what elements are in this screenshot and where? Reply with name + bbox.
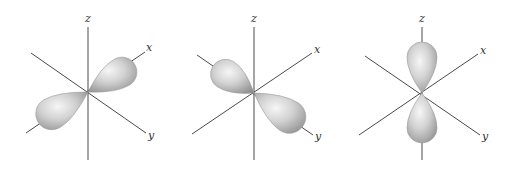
orbital-lobe-2 bbox=[254, 93, 306, 133]
orbital-lobe-1 bbox=[88, 57, 137, 92]
orbital-lobe-2 bbox=[407, 93, 437, 143]
z-axis-label: z bbox=[84, 12, 91, 25]
x-axis-label: x bbox=[314, 43, 321, 56]
p-orbitals-figure: xyz xyz xyz bbox=[0, 0, 508, 173]
orbital-lobe-2 bbox=[36, 92, 88, 130]
z-axis-label: z bbox=[250, 12, 257, 25]
x-axis-label: x bbox=[146, 41, 153, 54]
x-axis-label: x bbox=[480, 44, 487, 57]
panel-pz: xyz bbox=[359, 12, 489, 160]
orbital-lobe-1 bbox=[211, 59, 254, 93]
panel-py: xyz bbox=[192, 12, 322, 160]
panel-px: xyz bbox=[26, 12, 155, 160]
y-axis-label: y bbox=[147, 129, 155, 142]
y-axis-label: y bbox=[481, 130, 489, 143]
y-axis-label: y bbox=[314, 130, 322, 143]
z-axis-label: z bbox=[418, 12, 425, 25]
